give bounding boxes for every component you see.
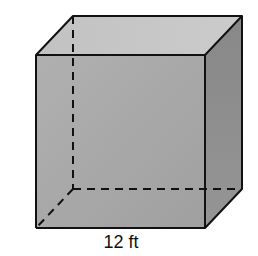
dimension-label: 12 ft [0, 232, 242, 253]
cube-diagram [0, 0, 258, 256]
